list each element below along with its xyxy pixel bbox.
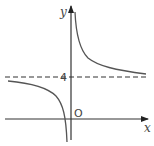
asymptote-value-label: 4 bbox=[60, 71, 67, 84]
right-branch-curve bbox=[75, 12, 146, 74]
x-axis-label: x bbox=[144, 121, 151, 135]
origin-label: O bbox=[74, 107, 83, 120]
left-branch-curve bbox=[8, 81, 67, 142]
y-axis-label: y bbox=[59, 5, 67, 19]
function-graph: y x 4 O bbox=[0, 0, 154, 146]
